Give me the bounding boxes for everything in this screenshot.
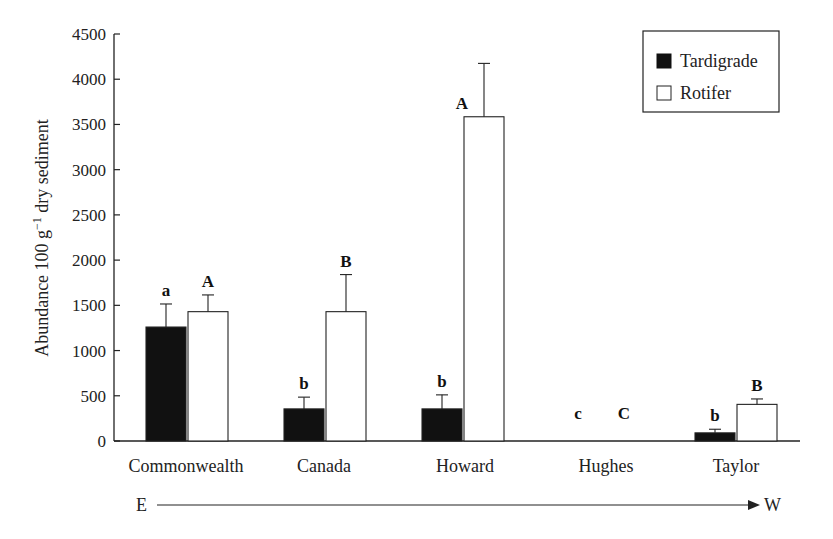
bar-chart: 050010001500200025003000350040004500 aAb… [0,0,833,539]
category-label: Hughes [579,456,634,476]
significance-label: b [710,406,719,425]
bar-rotifer [326,312,366,441]
y-axis-ticks: 050010001500200025003000350040004500 [72,25,120,451]
significance-label: A [202,272,215,291]
legend: Tardigrade Rotifer [643,31,779,112]
y-tick-label: 0 [98,432,107,451]
y-axis-label: Abundance 100 g−1 dry sediment [30,119,52,357]
bar-tardigrade [695,433,735,441]
category-label: Howard [436,456,494,476]
y-tick-label: 2500 [72,206,106,225]
category-label: Taylor [713,456,760,476]
bars: aAbBbAcCbB [146,63,777,441]
significance-label: c [574,404,582,423]
significance-label: C [618,404,630,423]
significance-label: B [340,252,351,271]
category-label: Canada [297,456,351,476]
direction-arrow: E W [136,495,781,515]
y-tick-label: 2000 [72,251,106,270]
bar-rotifer [737,404,777,441]
significance-label: B [751,376,762,395]
y-tick-label: 4000 [72,70,106,89]
significance-label: a [162,281,171,300]
bar-tardigrade [284,409,324,441]
legend-swatch-rotifer [657,86,671,100]
legend-swatch-tardigrade [657,54,671,68]
category-label: Commonwealth [129,456,244,476]
bar-rotifer [188,312,228,441]
direction-end-label: W [764,495,781,515]
legend-label-rotifer: Rotifer [680,83,731,103]
y-tick-label: 3000 [72,161,106,180]
bar-tardigrade [146,327,186,441]
x-axis-category-labels: CommonwealthCanadaHowardHughesTaylor [129,456,760,476]
y-tick-label: 1500 [72,296,106,315]
significance-label: b [299,374,308,393]
legend-label-tardigrade: Tardigrade [680,51,758,71]
y-tick-label: 3500 [72,115,106,134]
bar-rotifer [464,117,504,441]
arrowhead-icon [748,500,760,510]
y-tick-label: 4500 [72,25,106,44]
y-tick-label: 500 [81,387,107,406]
direction-start-label: E [136,495,147,515]
significance-label: A [456,94,469,113]
y-tick-label: 1000 [72,342,106,361]
significance-label: b [437,372,446,391]
bar-tardigrade [422,409,462,441]
